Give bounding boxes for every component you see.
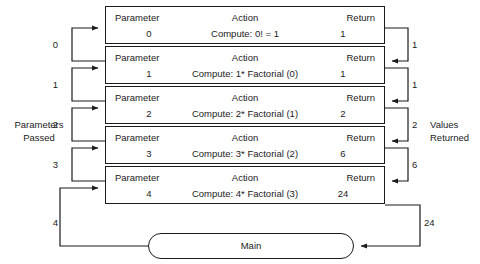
parameters-passed-label: Parameters Passed [2,118,76,144]
value-returned-value: 2 [412,119,430,130]
return-arrow-2 [385,108,408,141]
parameters-passed-label-line1: Parameters [2,118,76,131]
parameter-passed-value: 1 [44,79,58,90]
stack-frame: Parameter Action Return 1 Compute: 1* Fa… [105,46,385,84]
parameter-passed-value: 3 [44,159,58,170]
frame-return-value: 1 [302,25,384,42]
column-header-return: Return [346,129,375,146]
column-header-action: Action [106,89,384,106]
recursion-diagram: Parameter Action Return 0 Compute: 0! = … [0,0,480,264]
stack-frame: Parameter Action Return 2 Compute: 2* Fa… [105,86,385,124]
column-header-return: Return [346,89,375,106]
param-arrow-1 [72,68,105,101]
column-header-action: Action [106,49,384,66]
column-header-return: Return [346,9,375,26]
param-arrow-3 [72,148,105,181]
frame-value-row: 2 Compute: 2* Factorial (1) 2 [106,105,384,122]
value-returned-value: 6 [412,159,430,170]
return-arrow-1 [385,68,408,101]
stack-frame: Parameter Action Return 3 Compute: 3* Fa… [105,126,385,164]
frame-header-row: Parameter Action Return [106,169,384,186]
value-returned-value: 24 [424,217,442,228]
column-header-return: Return [346,49,375,66]
parameter-passed-value: 2 [44,119,58,130]
parameter-passed-value: 4 [44,217,58,228]
stack-frame: Parameter Action Return 4 Compute: 4* Fa… [105,166,385,204]
return-arrow-4 [361,205,420,246]
column-header-return: Return [346,169,375,186]
column-header-action: Action [106,9,384,26]
frame-header-row: Parameter Action Return [106,9,384,26]
return-arrow-3 [385,148,408,181]
frame-header-row: Parameter Action Return [106,129,384,146]
return-arrow-0 [385,28,408,61]
values-returned-label: Values Returned [430,118,480,144]
column-header-action: Action [106,129,384,146]
main-box-label: Main [241,240,262,251]
stack-frame: Parameter Action Return 0 Compute: 0! = … [105,6,385,44]
frame-value-row: 1 Compute: 1* Factorial (0) 1 [106,65,384,82]
value-returned-value: 1 [412,39,430,50]
frame-header-row: Parameter Action Return [106,49,384,66]
frame-value-row: 3 Compute: 3* Factorial (2) 6 [106,145,384,162]
frame-value-row: 4 Compute: 4* Factorial (3) 24 [106,185,384,202]
column-header-action: Action [106,169,384,186]
param-arrow-0 [72,28,105,61]
value-returned-value: 1 [412,79,430,90]
param-arrow-2 [72,108,105,141]
frame-header-row: Parameter Action Return [106,89,384,106]
parameter-passed-value: 0 [44,39,58,50]
frame-value-row: 0 Compute: 0! = 1 1 [106,25,384,42]
frame-return-value: 6 [302,145,384,162]
frame-return-value: 1 [302,65,384,82]
values-returned-label-line1: Values [430,118,480,131]
frame-return-value: 2 [302,105,384,122]
parameters-passed-label-line2: Passed [2,131,76,144]
values-returned-label-line2: Returned [430,131,480,144]
main-box: Main [148,233,354,259]
frame-return-value: 24 [302,185,384,202]
